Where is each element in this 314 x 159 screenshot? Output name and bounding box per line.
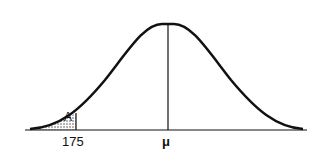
normal-curve-diagram — [0, 0, 314, 159]
mean-label: μ — [162, 134, 170, 149]
x-tick-label: 175 — [62, 134, 84, 149]
shaded-region-label: A — [64, 110, 72, 124]
